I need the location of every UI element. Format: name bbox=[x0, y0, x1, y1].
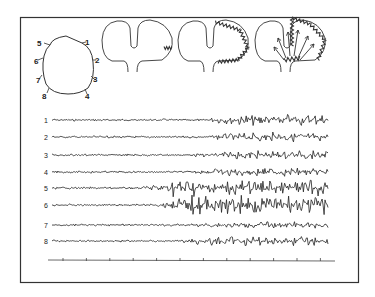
electrode-label-4: 4 bbox=[85, 92, 90, 101]
electrode-label-6: 6 bbox=[34, 57, 39, 66]
channel-label-6: 6 bbox=[44, 202, 48, 209]
time-axis bbox=[48, 258, 335, 261]
channel-label-3: 3 bbox=[44, 152, 48, 159]
spread-arrow-icon bbox=[278, 38, 286, 58]
channel-label-8: 8 bbox=[44, 238, 48, 245]
channel-label-1: 1 bbox=[44, 117, 48, 124]
electrode-label-3: 3 bbox=[93, 75, 98, 84]
spread-arrow-icon bbox=[298, 36, 308, 58]
channel-label-5: 5 bbox=[44, 185, 48, 192]
brain-section-generalized bbox=[255, 17, 326, 72]
channel-label-2: 2 bbox=[44, 134, 48, 141]
electrode-label-8: 8 bbox=[42, 92, 47, 101]
brain-section-focal bbox=[102, 20, 172, 72]
spread-arrow-icon bbox=[294, 30, 298, 56]
eeg-trace-2 bbox=[52, 132, 328, 142]
eeg-trace-3 bbox=[52, 151, 328, 159]
eeg-trace-8 bbox=[52, 237, 328, 246]
head-electrode-montage: 5 1 6 2 7 3 8 4 bbox=[34, 36, 100, 101]
electrode-label-5: 5 bbox=[37, 39, 42, 48]
channel-label-4: 4 bbox=[44, 169, 48, 176]
spread-arrow-icon bbox=[300, 44, 314, 60]
eeg-trace-5 bbox=[52, 180, 328, 197]
brain-section-spread bbox=[178, 20, 249, 72]
channel-label-7: 7 bbox=[44, 222, 48, 229]
electrode-label-2: 2 bbox=[95, 56, 100, 65]
eeg-figure: 5 1 6 2 7 3 8 4 12345678 bbox=[0, 0, 375, 297]
eeg-trace-6 bbox=[52, 195, 328, 215]
eeg-trace-1 bbox=[52, 114, 328, 125]
eeg-trace-7 bbox=[52, 222, 328, 229]
electrode-label-7: 7 bbox=[36, 76, 41, 85]
eeg-trace-4 bbox=[52, 168, 328, 176]
electrode-label-1: 1 bbox=[85, 38, 90, 47]
